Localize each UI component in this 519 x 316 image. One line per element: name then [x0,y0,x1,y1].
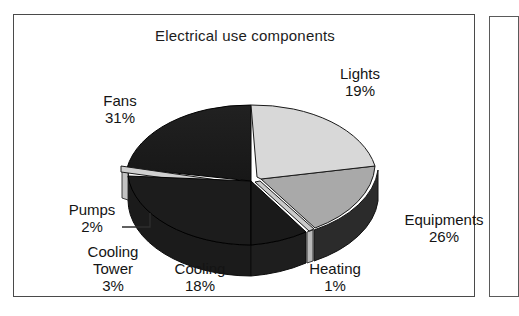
pie-label-cooling-tower-percent: 3% [74,277,152,294]
slice-lights[interactable] [251,105,375,179]
pie-label-cooling: Cooling 18% [154,260,246,294]
pie-label-pumps: Pumps 2% [52,201,132,235]
pie-label-cooling-tower-name-line1: Cooling [74,243,152,260]
pie-label-heating-percent: 1% [289,277,381,294]
pie-label-lights-name: Lights [314,65,406,82]
chart-panel: Electrical use components [13,14,475,297]
pie-label-lights: Lights 19% [314,65,406,99]
pie-label-cooling-name: Cooling [154,260,246,277]
pie-label-equipments-name: Equipments [384,211,504,228]
pie-label-pumps-name: Pumps [52,201,132,218]
pie-label-cooling-tower-name-line2: Tower [74,260,152,277]
pie-label-pumps-percent: 2% [52,218,132,235]
pie-label-cooling-tower: Cooling Tower 3% [74,243,152,294]
pie-label-fans: Fans 31% [74,92,166,126]
pie-label-equipments: Equipments 26% [384,211,504,245]
pie-label-heating: Heating 1% [289,260,381,294]
adjacent-panel-edge [489,16,519,297]
pie-label-lights-percent: 19% [314,82,406,99]
pie-label-heating-name: Heating [289,260,381,277]
pie-label-fans-name: Fans [74,92,166,109]
pie-label-cooling-percent: 18% [154,277,246,294]
pie-label-fans-percent: 31% [74,109,166,126]
wall-heating [307,230,313,263]
pie-label-equipments-percent: 26% [384,228,504,245]
